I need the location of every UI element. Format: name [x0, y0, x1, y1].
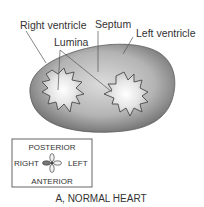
orientation-posterior: POSTERIOR: [28, 143, 75, 152]
figure-caption: A, NORMAL HEART: [55, 193, 146, 204]
orientation-legend: POSTERIOR RIGHT LEFT ANTERIOR: [12, 139, 92, 187]
label-left-ventricle: Left ventricle: [136, 27, 196, 39]
label-lumina: Lumina: [54, 36, 89, 48]
orientation-anterior: ANTERIOR: [31, 177, 73, 186]
orientation-right: RIGHT: [14, 159, 39, 168]
orientation-left: LEFT: [68, 159, 88, 168]
heart-cross-section-diagram: Right ventricle Septum Left ventricle Lu…: [0, 0, 204, 207]
label-septum: Septum: [95, 18, 131, 30]
label-right-ventricle: Right ventricle: [20, 19, 87, 31]
